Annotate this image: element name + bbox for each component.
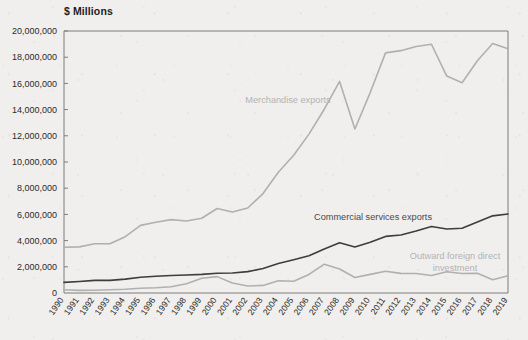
annotation-outward-fdi-line1: Outward foreign direct [410,251,501,261]
y-axis-tick-label: 8,000,000 [17,183,57,193]
y-axis-tick-label: 4,000,000 [17,236,57,246]
x-axis-tick-label: 1999 [184,295,203,317]
y-axis-tick-marks [64,31,68,267]
y-axis-tick-label: 20,000,000 [12,26,57,36]
x-axis-tick-labels: 1990199119921993199419951996199719981999… [46,295,509,317]
line-chart-plot: 02,000,0004,000,0006,000,0008,000,00010,… [0,0,528,340]
x-axis-tick-label: 1991 [62,295,81,317]
x-axis-tick-label: 2003 [246,295,265,317]
series-line [64,43,508,247]
x-axis-tick-label: 2014 [414,295,433,317]
x-axis-tick-label: 2011 [368,295,387,316]
chart-figure: $ Millions 02,000,0004,000,0006,000,0008… [0,0,528,340]
x-axis-tick-label: 2000 [200,295,219,317]
annotation-merchandise-exports: Merchandise exports [245,95,331,105]
x-axis-tick-label: 1995 [123,295,142,317]
x-axis-tick-label: 2009 [337,295,356,317]
series-inline-annotations: Merchandise exportsCommercial services e… [245,95,500,273]
x-axis-tick-label: 2018 [475,295,494,317]
x-axis-tick-label: 1990 [46,295,65,317]
x-axis-tick-label: 2002 [230,295,249,317]
annotation-commercial-services-exports: Commercial services exports [314,212,432,222]
x-axis-tick-label: 1996 [138,295,157,317]
x-axis-tick-label: 2013 [399,295,418,317]
x-axis-tick-label: 2016 [445,295,464,317]
y-axis-tick-label: 10,000,000 [12,157,57,167]
x-axis-tick-label: 2004 [261,295,280,317]
y-axis-tick-label: 14,000,000 [12,105,57,115]
y-axis-tick-label: 16,000,000 [12,79,57,89]
x-axis-tick-label: 2007 [307,295,326,317]
x-axis-tick-label: 1997 [154,295,173,317]
y-axis-tick-label: 2,000,000 [17,262,57,272]
x-axis-tick-label: 2012 [383,295,402,317]
x-axis-tick-label: 1993 [92,295,111,317]
x-axis-tick-label: 2005 [276,295,295,317]
y-axis-tick-label: 18,000,000 [12,52,57,62]
y-axis-tick-labels: 02,000,0004,000,0006,000,0008,000,00010,… [12,26,57,298]
x-axis-tick-label: 2006 [291,295,310,317]
annotation-outward-fdi-line2: investment [433,263,478,273]
x-axis-tick-label: 2010 [353,295,372,317]
y-axis-tick-label: 6,000,000 [17,210,57,220]
x-axis-tick-label: 2015 [429,295,448,317]
x-axis-tick-label: 2017 [460,295,479,317]
x-axis-tick-label: 1992 [77,295,96,317]
y-axis-tick-label: 12,000,000 [12,131,57,141]
x-axis-tick-label: 1998 [169,295,188,317]
x-axis-tick-label: 2001 [215,295,234,317]
x-axis-tick-label: 2019 [490,295,509,317]
x-axis-tick-label: 1994 [108,295,127,317]
x-axis-tick-label: 2008 [322,295,341,317]
